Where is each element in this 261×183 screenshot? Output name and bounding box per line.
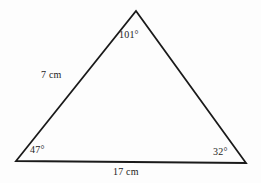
bottom-right-angle-label: 32° xyxy=(213,147,228,157)
apex-angle-label: 101° xyxy=(119,30,139,40)
bottom-left-angle-label: 47° xyxy=(30,145,45,155)
triangle-figure: 101° 7 cm 47° 32° 17 cm xyxy=(0,0,261,183)
base-side-length-label: 17 cm xyxy=(113,167,139,177)
left-side-length-label: 7 cm xyxy=(41,70,62,80)
